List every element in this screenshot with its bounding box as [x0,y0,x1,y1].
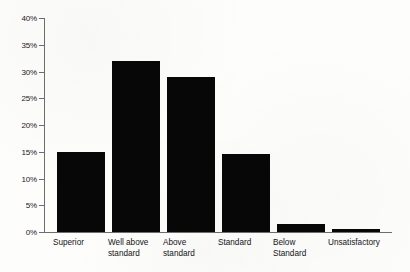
x-axis-category-label: Unsatisfactory [328,238,400,249]
y-axis-tick-label: 40% [22,14,37,23]
y-axis-tick-label: 5% [26,201,37,210]
bar [57,152,105,232]
y-axis-tick-label: 25% [22,94,37,103]
y-axis-tick [39,98,45,99]
y-axis-tick [39,152,45,153]
bar [112,61,160,232]
y-axis-tick-label: 15% [22,147,37,156]
y-axis-tick-label: 20% [22,121,37,130]
y-axis-tick-label: 35% [22,40,37,49]
plot-area: 0%5%10%15%20%25%30%35%40% SuperiorWell a… [0,0,410,272]
x-axis-line [44,232,392,233]
y-axis-tick-label: 10% [22,174,37,183]
y-axis-tick [39,125,45,126]
y-axis-tick [39,179,45,180]
y-axis-tick [39,232,45,233]
y-axis-tick [39,18,45,19]
y-axis-tick [39,45,45,46]
bar-chart-screenshot: 0%5%10%15%20%25%30%35%40% SuperiorWell a… [0,0,410,272]
y-axis-tick [39,205,45,206]
y-axis-tick-label: 30% [22,67,37,76]
y-axis-tick [39,72,45,73]
bar [222,154,270,232]
y-axis-tick-label: 0% [26,228,37,237]
bar [277,224,325,232]
bar [332,229,380,232]
bar [167,77,215,232]
